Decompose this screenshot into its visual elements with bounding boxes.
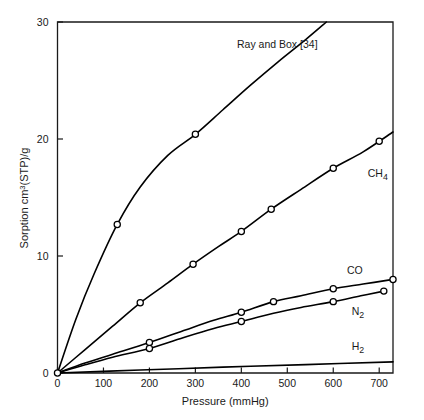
marker-N2 [146,345,152,351]
marker-CO [270,299,276,305]
marker-CH4 [190,261,196,267]
series-curves [58,22,394,373]
axis-ticks [58,22,380,373]
x-tick-label-200: 200 [141,377,159,389]
marker-CH4 [268,206,274,212]
series-line-CH4 [58,132,394,373]
series-label-N2: N2 [352,305,364,320]
plot-frame [58,22,394,373]
chart-annotation: Ray and Box [34] [237,38,318,50]
y-tick-label-0: 0 [0,367,49,379]
y-tick-label-30: 30 [0,16,49,28]
marker-CO [390,276,396,282]
x-tick-label-600: 600 [324,377,342,389]
x-tick-label-700: 700 [370,377,388,389]
y-axis-title: Sorption cm3(STP)/g [18,147,30,248]
series-label-CO: CO [347,264,363,276]
x-tick-label-500: 500 [279,377,297,389]
marker-N2 [330,299,336,305]
marker-CH4 [137,300,143,306]
y-tick-label-20: 20 [0,133,49,145]
series-line-H2 [58,362,394,373]
sorption-isotherm-plot [0,0,424,420]
marker-CH4 [330,165,336,171]
x-tick-label-0: 0 [55,377,61,389]
marker-CH4 [238,228,244,234]
x-tick-label-300: 300 [187,377,205,389]
marker-CO [238,309,244,315]
marker-series0 [54,370,60,376]
y-tick-label-10: 10 [0,250,49,262]
marker-CH4 [376,138,382,144]
chart-figure: 01002003004005006007000102030Pressure (m… [0,0,424,420]
x-tick-label-100: 100 [95,377,113,389]
series-line-unlabeled-0 [58,22,327,373]
marker-series0 [192,131,198,137]
series-label-H2: H2 [352,340,364,355]
marker-N2 [381,288,387,294]
x-tick-label-400: 400 [233,377,251,389]
marker-CO [330,286,336,292]
data-point-markers [54,131,396,376]
marker-N2 [238,318,244,324]
series-label-CH4: CH4 [368,167,388,182]
marker-series0 [114,221,120,227]
x-axis-title: Pressure (mmHg) [182,395,269,407]
